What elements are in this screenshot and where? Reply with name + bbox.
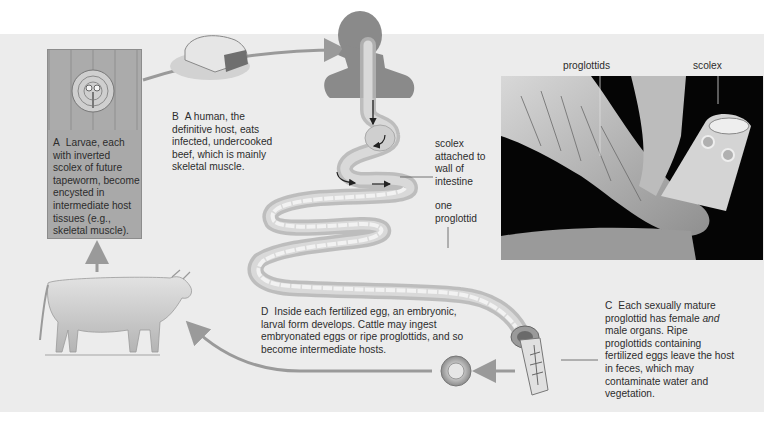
- step-b-text: BA human, the definitive host, eats infe…: [172, 111, 284, 174]
- cow-illustration: [40, 270, 192, 355]
- step-a-text: ALarvae, each with inverted scolex of fu…: [53, 137, 141, 238]
- fertilized-egg-illustration: [441, 356, 471, 386]
- step-a-box: ALarvae, each with inverted scolex of fu…: [47, 49, 142, 239]
- step-d-text: DInside each fertilized egg, an embryoni…: [261, 306, 471, 356]
- muscle-fibers: [48, 50, 141, 130]
- label-one-proglottid: one proglottid: [435, 200, 495, 225]
- tapeworm-micrograph: [501, 76, 763, 260]
- raw-beef-illustration: [170, 36, 250, 80]
- label-photo-proglottids: proglottids: [563, 60, 610, 73]
- step-c-text: CEach sexually mature proglottid has fem…: [605, 300, 735, 401]
- photo-label-leaders: [501, 76, 763, 260]
- label-photo-scolex: scolex: [693, 60, 722, 73]
- label-scolex-attached: scolex attached to wall of intestine: [435, 138, 495, 188]
